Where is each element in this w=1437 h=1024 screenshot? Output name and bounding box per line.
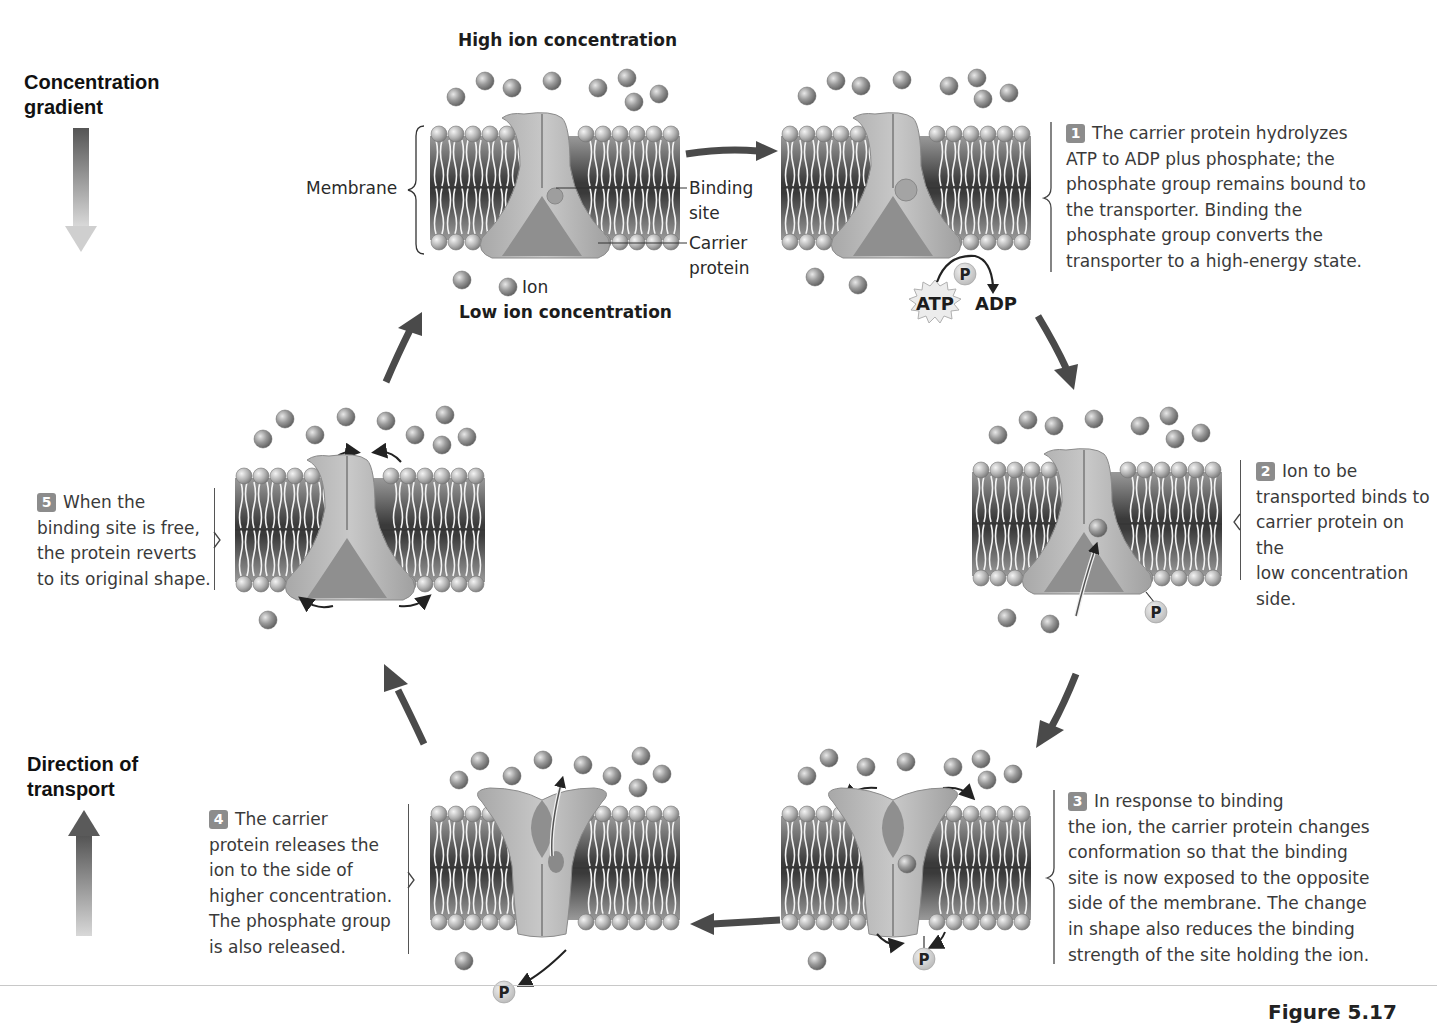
cycle-arrow-right-icon (684, 137, 784, 167)
step-1-description: 1The carrier protein hydrolyzes ATP to A… (1066, 121, 1396, 275)
step-4-badge: 4 (209, 810, 228, 829)
membrane-state-step5 (235, 398, 495, 638)
step-3-description: 3In response to binding the ion, the car… (1068, 789, 1398, 968)
carrier-protein-line-2: protein (689, 256, 749, 281)
step-5-line-2: the protein reverts (37, 541, 217, 567)
concentration-gradient-line-1: Concentration (24, 70, 160, 95)
step-3-badge: 3 (1068, 792, 1087, 811)
membrane-state-step2 (972, 402, 1232, 642)
step-1-line-0: The carrier protein hydrolyzes (1092, 123, 1348, 143)
step-4-line-4: The phosphate group (209, 909, 409, 935)
membrane-state-step3 (781, 738, 1041, 978)
step-3-line-5: in shape also reduces the binding (1068, 917, 1398, 943)
transport-up-arrow-icon (65, 808, 105, 938)
step5-brace-point-icon (214, 530, 234, 550)
step-1-line-3: the transporter. Binding the (1066, 198, 1396, 224)
carrier-protein-label: Carrier protein (689, 231, 749, 281)
cycle-arrow-left-icon (684, 908, 784, 938)
ion-legend-icon (450, 266, 520, 306)
carrier-protein-line-1: Carrier (689, 231, 749, 256)
adp-label: ADP (975, 293, 1017, 314)
step-2-line-2: carrier protein on the (1256, 510, 1436, 561)
ion-label: Ion (522, 275, 548, 300)
figure-label: Figure 5.17 (1268, 1000, 1397, 1024)
step-1-line-2: phosphate group remains bound to (1066, 172, 1396, 198)
binding-site-line-2: site (689, 201, 753, 226)
step-5-description: 5When the binding site is free, the prot… (37, 490, 217, 592)
cycle-arrow-up-right-icon (378, 296, 438, 386)
concentration-gradient-title: Concentration gradient (24, 70, 160, 120)
membrane-state-step4 (430, 738, 690, 1008)
cycle-arrow-up-left-icon (376, 660, 436, 750)
step-5-badge: 5 (37, 493, 56, 512)
binding-site-label: Binding site (689, 176, 753, 226)
step-3-line-4: side of the membrane. The change (1068, 891, 1398, 917)
step2-brace-point-icon (1234, 512, 1254, 532)
step4-brace-point-icon (408, 870, 428, 890)
step-5-line-0: When the (63, 492, 145, 512)
step-5-line-1: binding site is free, (37, 516, 217, 542)
cycle-arrow-down-right-icon (1030, 310, 1090, 400)
direction-of-transport-title: Direction of transport (27, 752, 138, 802)
step-3-line-1: the ion, the carrier protein changes (1068, 815, 1398, 841)
step-3-line-2: conformation so that the binding (1068, 840, 1398, 866)
membrane-label: Membrane (306, 176, 397, 201)
step-3-line-3: site is now exposed to the opposite (1068, 866, 1398, 892)
gradient-down-arrow-icon (62, 126, 102, 256)
step-4-line-1: protein releases the (209, 833, 409, 859)
concentration-gradient-line-2: gradient (24, 95, 160, 120)
binding-site-line-1: Binding (689, 176, 753, 201)
step-4-line-3: higher concentration. (209, 884, 409, 910)
page-footer-rule (0, 985, 1437, 986)
direction-line-1: Direction of (27, 752, 138, 777)
step-3-line-6: strength of the site holding the ion. (1068, 943, 1398, 969)
step-4-line-0: The carrier (235, 809, 328, 829)
membrane-brace-icon (404, 122, 434, 262)
step-4-line-2: ion to the side of (209, 858, 409, 884)
label-leader-lines (550, 180, 690, 260)
step-5-line-3: to its original shape. (37, 567, 217, 593)
step-1-line-1: ATP to ADP plus phosphate; the (1066, 147, 1396, 173)
step-2-line-0: Ion to be (1282, 461, 1357, 481)
step-2-badge: 2 (1256, 462, 1275, 481)
step-2-line-4: side. (1256, 587, 1436, 613)
direction-line-2: transport (27, 777, 138, 802)
step-2-line-1: transported binds to (1256, 485, 1436, 511)
step-3-line-0: In response to binding (1094, 791, 1284, 811)
atp-hydrolysis-graphic (895, 252, 1035, 332)
step-1-badge: 1 (1066, 124, 1085, 143)
step-2-description: 2Ion to be transported binds to carrier … (1256, 459, 1436, 613)
step-1-line-4: phosphate group converts the (1066, 223, 1396, 249)
step-4-description: 4The carrier protein releases the ion to… (209, 807, 409, 961)
high-ion-concentration-label: High ion concentration (458, 30, 677, 50)
step-2-line-3: low concentration (1256, 561, 1436, 587)
low-ion-concentration-label: Low ion concentration (459, 302, 672, 322)
step-1-line-5: transporter to a high-energy state. (1066, 249, 1396, 275)
step-4-line-5: is also released. (209, 935, 409, 961)
atp-label: ATP (916, 293, 954, 314)
ions-top (447, 69, 668, 111)
